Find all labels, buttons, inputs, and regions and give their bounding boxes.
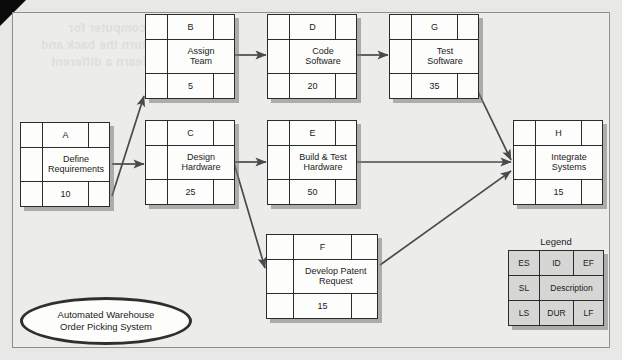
activity-node-a[interactable]: A DefineRequirements 10 xyxy=(20,122,110,207)
node-f-desc-line-2: Request xyxy=(319,276,353,286)
activity-node-e[interactable]: E Build & TestHardware 50 xyxy=(267,120,357,205)
legend-cell-dur: DUR xyxy=(539,301,573,325)
node-d-id: D xyxy=(289,15,335,39)
activity-node-f[interactable]: F Develop PatentRequest 15 xyxy=(266,234,378,319)
node-b-row-mid: AssignTeam xyxy=(146,39,234,73)
node-c-description: DesignHardware xyxy=(167,146,234,179)
node-f-id: F xyxy=(293,235,350,259)
scanned-page: computer for turn the back and learn a d… xyxy=(0,0,622,360)
node-f-row-bottom: 15 xyxy=(267,293,377,318)
node-f-sl xyxy=(267,260,293,293)
node-g-sl xyxy=(390,40,411,73)
node-a-desc-line-1: Define xyxy=(63,154,89,164)
node-b-row-bottom: 5 xyxy=(146,73,234,98)
node-b-es xyxy=(146,15,167,39)
activity-node-h[interactable]: H IntegrateSystems 15 xyxy=(513,120,603,205)
node-g-ls xyxy=(390,74,411,98)
node-b-desc-line-1: Assign xyxy=(188,46,215,56)
node-d-description: CodeSoftware xyxy=(289,40,356,73)
activity-node-b[interactable]: B AssignTeam 5 xyxy=(145,14,235,99)
node-g-row-bottom: 35 xyxy=(390,73,478,98)
node-f-description: Develop PatentRequest xyxy=(293,260,377,293)
node-a-row-top: A xyxy=(21,123,109,147)
node-d-row-mid: CodeSoftware xyxy=(268,39,356,73)
node-c-desc-line-2: Hardware xyxy=(182,162,221,172)
node-h-id: H xyxy=(535,121,581,145)
node-e-row-mid: Build & TestHardware xyxy=(268,145,356,179)
node-e-lf xyxy=(335,180,356,204)
legend-cell-ef: EF xyxy=(573,251,603,275)
edge-a-to-b xyxy=(112,96,144,196)
node-c-lf xyxy=(213,180,234,204)
activity-node-c[interactable]: C DesignHardware 25 xyxy=(145,120,235,205)
node-f-desc-line-1: Develop Patent xyxy=(305,266,367,276)
node-c-ls xyxy=(146,180,167,204)
node-g-desc-line-2: Software xyxy=(427,56,463,66)
project-title-line-2: Order Picking System xyxy=(60,321,152,332)
node-g-id: G xyxy=(411,15,457,39)
node-b-description: AssignTeam xyxy=(167,40,234,73)
node-d-row-bottom: 20 xyxy=(268,73,356,98)
node-e-ls xyxy=(268,180,289,204)
node-a-duration: 10 xyxy=(42,182,88,206)
node-g-row-top: G xyxy=(390,15,478,39)
node-c-ef xyxy=(213,121,234,145)
legend-cell-sl: SL xyxy=(509,276,539,300)
legend-row-mid: SL Description xyxy=(509,275,603,300)
node-g-row-mid: TestSoftware xyxy=(390,39,478,73)
node-e-row-bottom: 50 xyxy=(268,179,356,204)
node-c-sl xyxy=(146,146,167,179)
node-d-ef xyxy=(335,15,356,39)
activity-node-d[interactable]: D CodeSoftware 20 xyxy=(267,14,357,99)
node-a-ls xyxy=(21,182,42,206)
node-a-row-bottom: 10 xyxy=(21,181,109,206)
node-b-desc-line-2: Team xyxy=(190,56,212,66)
node-e-id: E xyxy=(289,121,335,145)
node-d-desc-line-2: Software xyxy=(305,56,341,66)
node-d-row-top: D xyxy=(268,15,356,39)
node-c-row-bottom: 25 xyxy=(146,179,234,204)
legend-row-bottom: LS DUR LF xyxy=(509,300,603,325)
legend-cell-description: Description xyxy=(539,276,603,300)
node-f-es xyxy=(267,235,293,259)
node-d-es xyxy=(268,15,289,39)
node-b-lf xyxy=(213,74,234,98)
legend-cell-lf: LF xyxy=(573,301,603,325)
node-g-ef xyxy=(457,15,478,39)
project-title-line-1: Automated Warehouse xyxy=(58,309,155,320)
node-a-id: A xyxy=(42,123,88,147)
node-a-ef xyxy=(88,123,109,147)
node-b-ls xyxy=(146,74,167,98)
legend-cell-ls: LS xyxy=(509,301,539,325)
node-h-lf xyxy=(581,180,602,204)
node-e-desc-line-1: Build & Test xyxy=(299,152,346,162)
node-f-lf xyxy=(351,294,377,318)
node-e-row-top: E xyxy=(268,121,356,145)
node-h-desc-line-1: Integrate xyxy=(551,152,587,162)
node-d-sl xyxy=(268,40,289,73)
legend-row-top: ES ID EF xyxy=(509,251,603,275)
node-c-id: C xyxy=(167,121,213,145)
node-b-ef xyxy=(213,15,234,39)
node-a-sl xyxy=(21,148,42,181)
node-b-duration: 5 xyxy=(167,74,213,98)
node-f-ls xyxy=(267,294,293,318)
node-d-lf xyxy=(335,74,356,98)
node-g-es xyxy=(390,15,411,39)
legend: Legend ES ID EF SL Description LS DUR LF xyxy=(508,236,604,326)
node-g-desc-line-1: Test xyxy=(437,46,454,56)
node-e-ef xyxy=(335,121,356,145)
node-a-es xyxy=(21,123,42,147)
node-d-ls xyxy=(268,74,289,98)
node-d-duration: 20 xyxy=(289,74,335,98)
legend-box: ES ID EF SL Description LS DUR LF xyxy=(508,250,604,326)
activity-node-g[interactable]: G TestSoftware 35 xyxy=(389,14,479,99)
legend-cell-es: ES xyxy=(509,251,539,275)
edge-f-to-h xyxy=(380,171,511,265)
node-d-desc-line-1: Code xyxy=(312,46,334,56)
node-c-row-top: C xyxy=(146,121,234,145)
node-c-es xyxy=(146,121,167,145)
node-b-row-top: B xyxy=(146,15,234,39)
node-c-duration: 25 xyxy=(167,180,213,204)
node-e-duration: 50 xyxy=(289,180,335,204)
